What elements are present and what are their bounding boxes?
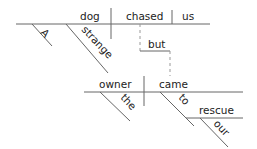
- clause2-subject-word: owner: [99, 78, 132, 90]
- object-word: us: [182, 10, 194, 22]
- subject-word: dog: [80, 10, 100, 22]
- verb-word: chased: [126, 10, 163, 22]
- modifier-word-the: the: [119, 91, 140, 112]
- modifier-word-strange: strange: [80, 23, 116, 61]
- modifier-word-a: A: [39, 26, 53, 40]
- conjunction-word: but: [148, 38, 165, 50]
- prep-object-word: rescue: [199, 104, 234, 116]
- clause2-verb-word: came: [159, 78, 188, 90]
- preposition-word: to: [177, 91, 193, 107]
- sentence-diagram: dog chased us A strange but owner came t…: [0, 0, 257, 149]
- modifier-word-our: our: [212, 117, 233, 138]
